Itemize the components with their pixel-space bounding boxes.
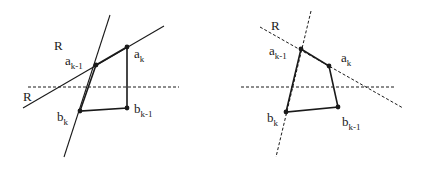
label-a-k-1: ak-1 xyxy=(65,53,83,71)
vertex-b-k-1 xyxy=(125,106,130,111)
shallow-dashed-line-R xyxy=(260,27,403,108)
label-b-k-1: bk-1 xyxy=(134,101,153,119)
vertex-b-k xyxy=(284,110,289,115)
label-a-k: ak xyxy=(341,50,352,68)
label-a-k-1: ak-1 xyxy=(269,43,287,61)
vertex-a-k xyxy=(327,64,332,69)
label-b-k: bk xyxy=(267,110,279,128)
right-panel: Rak-1akbkbk-1 xyxy=(241,11,403,157)
quadrilateral xyxy=(286,49,338,112)
left-panel: RRak-1akbkbk-1 xyxy=(23,15,179,157)
label-R: R xyxy=(54,38,63,53)
diagram-canvas: RRak-1akbkbk-1 Rak-1akbkbk-1 xyxy=(0,0,422,172)
shallow-line-R xyxy=(23,26,164,108)
vertex-a-k-1 xyxy=(94,63,99,68)
label-a-k: ak xyxy=(134,46,145,64)
vertex-a-k-1 xyxy=(299,47,304,52)
vertex-b-k xyxy=(78,109,83,114)
steep-line xyxy=(64,15,110,157)
label-R: R xyxy=(23,89,32,104)
label-b-k: bk xyxy=(57,109,69,127)
label-b-k-1: bk-1 xyxy=(342,114,361,132)
vertex-b-k-1 xyxy=(336,105,341,110)
vertex-a-k xyxy=(125,45,130,50)
quadrilateral xyxy=(80,47,127,111)
steep-dashed-line xyxy=(276,11,311,157)
label-R: R xyxy=(271,18,280,33)
